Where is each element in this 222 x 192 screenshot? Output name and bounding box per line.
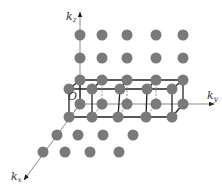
lattice-point: [87, 84, 98, 95]
lattice-point: [122, 75, 133, 86]
lattice-point: [38, 147, 49, 158]
kz-label: kz: [66, 10, 77, 24]
lattice-point: [122, 53, 133, 64]
lattice-point: [97, 99, 108, 110]
lattice-point: [98, 130, 109, 141]
lattice-point: [128, 130, 139, 141]
lattice-point: [114, 147, 125, 158]
lattice-point: [151, 30, 162, 41]
lattice-point: [73, 130, 84, 141]
lattice-point: [178, 30, 189, 41]
lattice-point: [97, 53, 108, 64]
lattice-point: [122, 30, 133, 41]
lattice-point: [151, 99, 162, 110]
lattice-point: [167, 112, 178, 123]
lattice-point: [85, 147, 96, 158]
lattice-point: [87, 112, 98, 123]
lattice-point: [75, 53, 86, 64]
ky-label: ky: [207, 89, 219, 103]
lattice-point: [142, 84, 153, 95]
lattice-point: [75, 75, 86, 86]
lattice-point: [97, 30, 108, 41]
lattice-point: [115, 84, 126, 95]
lattice-point: [75, 30, 86, 41]
lattice-point: [178, 53, 189, 64]
lattice-point: [97, 75, 108, 86]
lattice-point: [64, 112, 75, 123]
lattice-point: [178, 75, 189, 86]
origin-label: O: [68, 90, 77, 103]
bounding-box: [69, 80, 183, 117]
lattice-point: [167, 84, 178, 95]
lattice-point: [113, 112, 124, 123]
lattice-point: [178, 99, 189, 110]
lattice-point: [141, 112, 152, 123]
lattice-point: [60, 147, 71, 158]
lattice-points: [38, 30, 189, 158]
lattice-point: [151, 53, 162, 64]
lattice-point: [52, 130, 63, 141]
lattice-point: [151, 75, 162, 86]
kx-label: kx: [11, 170, 22, 184]
lattice-point: [122, 99, 133, 110]
k-space-lattice-diagram: kz ky kx O: [0, 0, 222, 192]
